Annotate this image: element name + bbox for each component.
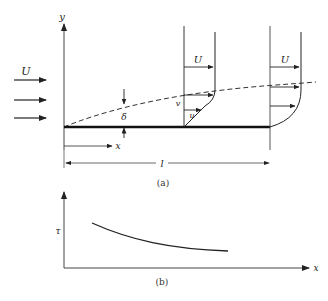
freestream-arrows xyxy=(14,80,46,118)
profile1-U-label: U xyxy=(194,54,203,65)
figure-b-caption: (b) xyxy=(156,277,169,287)
y-axis-label: y xyxy=(58,11,65,22)
velocity-profile-2 xyxy=(270,26,301,150)
profile1-v-label: v xyxy=(176,99,181,108)
plate-length-dimension xyxy=(64,150,270,168)
boundary-layer-figure: y U δ x U v u xyxy=(0,0,328,301)
figure-a: y U δ x U v u xyxy=(14,11,316,188)
tau-axis-label: τ xyxy=(56,226,62,236)
figure-a-caption: (a) xyxy=(157,178,169,188)
wall-shear-curve xyxy=(92,223,228,251)
figure-b: τ x (b) xyxy=(56,192,319,287)
x-axis-label: x xyxy=(115,141,120,151)
boundary-layer-edge xyxy=(64,82,316,127)
profile1-u-label: u xyxy=(189,111,194,120)
freestream-label: U xyxy=(21,65,31,78)
x-axis-b-label: x xyxy=(313,263,318,273)
plate-length-label: l xyxy=(160,158,163,169)
delta-label: δ xyxy=(121,112,126,122)
profile2-U-label: U xyxy=(281,54,290,65)
